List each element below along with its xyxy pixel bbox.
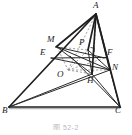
vertex-label-C: C <box>115 106 121 115</box>
vertex-label-P: P <box>79 38 85 47</box>
vertex-label-F: F <box>107 48 113 57</box>
figure-caption: 图 52-2 <box>0 124 132 130</box>
segment-BH <box>9 74 92 107</box>
inner-solid-lines <box>9 47 120 107</box>
segment-AN <box>96 14 110 70</box>
vertex-label-N: N <box>112 63 118 72</box>
vertex-label-E: E <box>40 48 46 57</box>
vertex-label-H: H <box>87 76 94 85</box>
vertex-label-A: A <box>93 1 99 10</box>
vertex-label-B: B <box>2 106 8 115</box>
vertex-label-M: M <box>47 35 55 44</box>
geometry-figure: A B C M E F N P O H 图 52-2 <box>0 0 132 135</box>
vertex-label-O: O <box>57 70 64 79</box>
side-AB <box>9 14 96 107</box>
segment-EF <box>51 58 106 59</box>
segment-MN <box>57 47 110 70</box>
